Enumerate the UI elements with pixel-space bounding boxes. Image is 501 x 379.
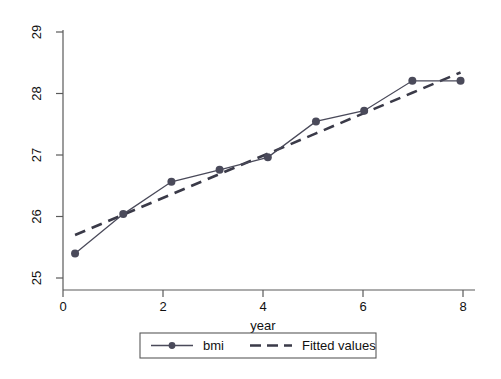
- data-point: [264, 153, 272, 161]
- data-point: [119, 210, 127, 218]
- legend-label-bmi: bmi: [203, 338, 224, 353]
- chart-container: 29 28 27 26 25 0 2 4 6 8 year: [0, 0, 501, 379]
- x-tick-label-0: 0: [59, 299, 66, 314]
- y-tick-label-27: 27: [29, 148, 44, 162]
- legend-bmi-marker-swatch: [169, 342, 176, 349]
- y-tick-label-25: 25: [29, 271, 44, 285]
- x-tick-label-2: 2: [159, 299, 166, 314]
- y-tick-label-29: 29: [29, 25, 44, 39]
- x-axis-tick-labels: 0 2 4 6 8: [59, 299, 466, 314]
- x-axis-ticks: [63, 290, 463, 297]
- data-point: [216, 166, 224, 174]
- x-tick-label-6: 6: [359, 299, 366, 314]
- y-tick-label-28: 28: [29, 86, 44, 100]
- data-point: [167, 178, 175, 186]
- x-axis-title: year: [250, 318, 276, 333]
- data-point: [312, 117, 320, 125]
- chart-legend: bmi Fitted values: [140, 333, 376, 358]
- x-tick-label-4: 4: [259, 299, 266, 314]
- data-point: [360, 107, 368, 115]
- legend-label-fitted-values: Fitted values: [302, 338, 376, 353]
- data-point: [71, 250, 79, 258]
- data-point: [457, 77, 465, 85]
- x-tick-label-8: 8: [459, 299, 466, 314]
- y-axis-ticks: [56, 32, 63, 278]
- data-point: [408, 77, 416, 85]
- line-chart: 29 28 27 26 25 0 2 4 6 8 year: [0, 0, 501, 379]
- y-axis-tick-labels: 29 28 27 26 25: [29, 25, 44, 285]
- y-tick-label-26: 26: [29, 209, 44, 223]
